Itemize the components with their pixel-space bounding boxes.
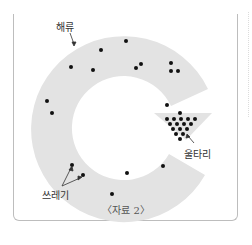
label-trash: 쓰레기	[42, 187, 69, 202]
figure-caption: 〈자료 2〉	[0, 202, 252, 217]
label-current: 해류	[56, 19, 74, 34]
label-fence: 울타리	[184, 146, 211, 161]
